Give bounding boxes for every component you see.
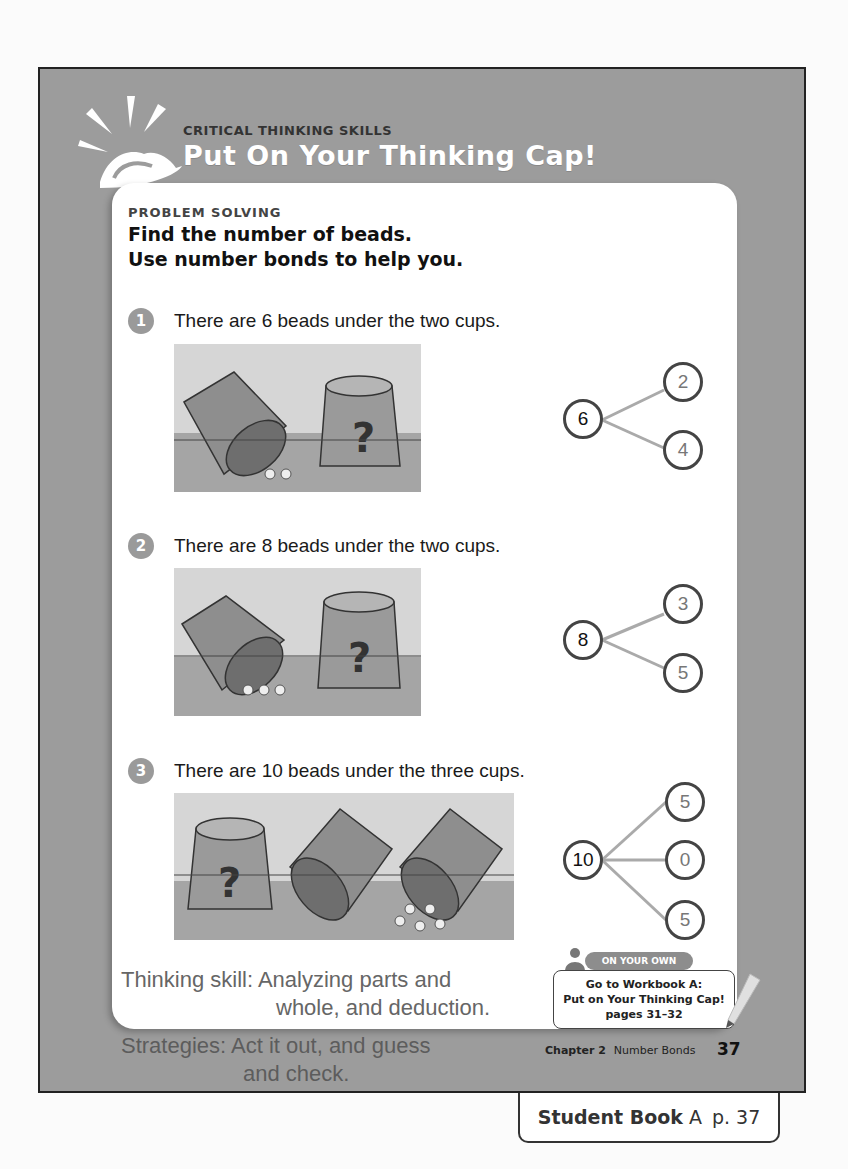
person-icon xyxy=(563,947,587,971)
cups-picture-3: ? xyxy=(174,793,514,940)
thinking-cap-icon xyxy=(78,96,188,194)
svg-text:?: ? xyxy=(218,860,241,906)
upright-cup-icon: ? xyxy=(320,376,400,466)
chapter-footer: Chapter 2Number Bonds xyxy=(545,1044,695,1057)
heading-line-1: Find the number of beads. xyxy=(128,222,463,247)
workbook-line: Put on Your Thinking Cap! xyxy=(554,992,734,1007)
bond-whole: 8 xyxy=(563,620,603,660)
banner-kicker: CRITICAL THINKING SKILLS xyxy=(183,123,392,138)
note-line: Thinking skill: Analyzing parts and xyxy=(121,966,490,994)
workbook-reference[interactable]: Go to Workbook A: Put on Your Thinking C… xyxy=(553,970,735,1029)
question-text: There are 6 beads under the two cups. xyxy=(174,310,500,332)
student-book-tab: Student Book A p. 37 xyxy=(518,1093,780,1143)
bond-part: 5 xyxy=(665,782,705,822)
question-number-badge: 1 xyxy=(128,308,154,334)
question-2: 2 There are 8 beads under the two cups. xyxy=(128,533,500,559)
bond-part: 4 xyxy=(663,430,703,470)
chapter-title: Number Bonds xyxy=(614,1044,696,1057)
svg-text:?: ? xyxy=(352,415,375,461)
on-your-own-label: ON YOUR OWN xyxy=(585,952,693,970)
section-heading: Find the number of beads. Use number bon… xyxy=(128,222,463,272)
bond-part: 5 xyxy=(665,900,705,940)
workbook-line: Go to Workbook A: xyxy=(554,977,734,992)
upright-cup-icon: ? xyxy=(188,818,272,909)
note-line: whole, and deduction. xyxy=(121,994,490,1022)
bond-whole: 10 xyxy=(563,840,603,880)
heading-line-2: Use number bonds to help you. xyxy=(128,247,463,272)
question-text: There are 10 beads under the three cups. xyxy=(174,760,525,782)
strategies-note: Strategies: Act it out, and guess and ch… xyxy=(121,1032,430,1088)
tipped-cup-icon xyxy=(280,809,392,931)
book-page: p. 37 xyxy=(712,1106,760,1128)
question-number-badge: 2 xyxy=(128,533,154,559)
svg-text:?: ? xyxy=(348,635,371,681)
cups-picture-2: ? xyxy=(174,568,421,716)
question-1: 1 There are 6 beads under the two cups. xyxy=(128,308,500,334)
page-number: 37 xyxy=(717,1039,741,1059)
question-text: There are 8 beads under the two cups. xyxy=(174,535,500,557)
chapter-number: Chapter 2 xyxy=(545,1044,606,1057)
question-number-badge: 3 xyxy=(128,758,154,784)
book-volume: A xyxy=(689,1106,702,1128)
section-kicker: PROBLEM SOLVING xyxy=(128,205,281,220)
book-name: Student Book xyxy=(538,1106,683,1128)
cups-picture-1: ? xyxy=(174,344,421,492)
bond-whole: 6 xyxy=(563,399,603,439)
bond-part: 3 xyxy=(663,584,703,624)
bond-part: 5 xyxy=(663,653,703,693)
note-line: Strategies: Act it out, and guess xyxy=(121,1032,430,1060)
pencil-icon xyxy=(722,970,762,1030)
tipped-cup-icon xyxy=(184,372,296,487)
note-line: and check. xyxy=(121,1060,430,1088)
banner-title: Put On Your Thinking Cap! xyxy=(183,140,597,171)
bond-part: 2 xyxy=(663,362,703,402)
thinking-skill-note: Thinking skill: Analyzing parts and whol… xyxy=(121,966,490,1022)
question-3: 3 There are 10 beads under the three cup… xyxy=(128,758,525,784)
workbook-line: pages 31–32 xyxy=(554,1007,734,1022)
bond-part: 0 xyxy=(665,840,705,880)
upright-cup-icon: ? xyxy=(318,592,400,688)
